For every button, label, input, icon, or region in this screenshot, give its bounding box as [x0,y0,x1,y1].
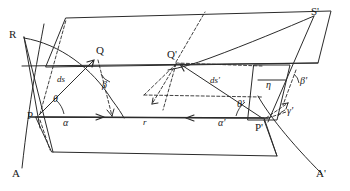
dashed-Qprime-box-horizontal [144,95,262,97]
lower-plane-outline [36,117,277,156]
edge-Pprime-lower [264,120,277,156]
segment-label-ds: ds [57,75,65,84]
angle-label-betaprime: β' [300,76,307,86]
geometry-diagram: R Q P A Q' P' S' A' θ α β θ' α' β' γ' η … [0,0,350,191]
angle-label-thetaprime: θ' [237,99,244,109]
angle-label-gammaprime: γ' [287,106,293,116]
point-label-Qprime: Q' [167,49,177,60]
point-label-A: A [12,168,20,179]
arc-Sprime-geodesic [168,16,314,70]
dashed-Qprime-box-arrowhead [152,98,158,104]
point-label-R: R [9,29,16,40]
point-label-Aprime: A' [316,168,326,179]
point-label-Pprime: P' [255,122,263,133]
dashed-Qprime-to-upper [176,12,205,62]
point-label-Sprime: S' [311,6,319,17]
angle-arc-betaprime [294,74,299,83]
segment-label-dsprime: ds' [210,76,220,85]
angle-label-beta: β [102,80,107,90]
eta-wedge-outline [248,65,290,120]
point-label-P: P [27,110,33,121]
upper-plane-outline [46,11,331,67]
segment-label-r: r [143,118,147,127]
point-label-Q: Q [96,45,104,56]
vector-dsprime [180,64,262,118]
angle-label-eta: η [266,80,271,90]
angle-label-theta: θ [53,94,58,104]
angle-label-alphaprime: α' [218,118,225,128]
angle-label-alpha: α [63,118,68,128]
dashed-Qprime-box-diag [163,64,176,110]
